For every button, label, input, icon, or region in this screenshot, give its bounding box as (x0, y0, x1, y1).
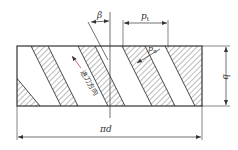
beta-dimension (91, 21, 109, 22)
tooth-band (31, 46, 78, 106)
tooth-bands (0, 46, 230, 106)
pt-label: pt (141, 11, 150, 22)
beta-label: β (96, 10, 102, 20)
circumference-label: πd (99, 124, 112, 134)
tooth-band (0, 46, 40, 106)
tooth-band (122, 46, 175, 106)
feed-direction-arrow-icon (72, 56, 81, 68)
b-label: b (221, 74, 231, 80)
helical-tooth-diagram: β pt pn b πd 进刀方向 (0, 0, 238, 150)
tooth-band (165, 46, 230, 106)
